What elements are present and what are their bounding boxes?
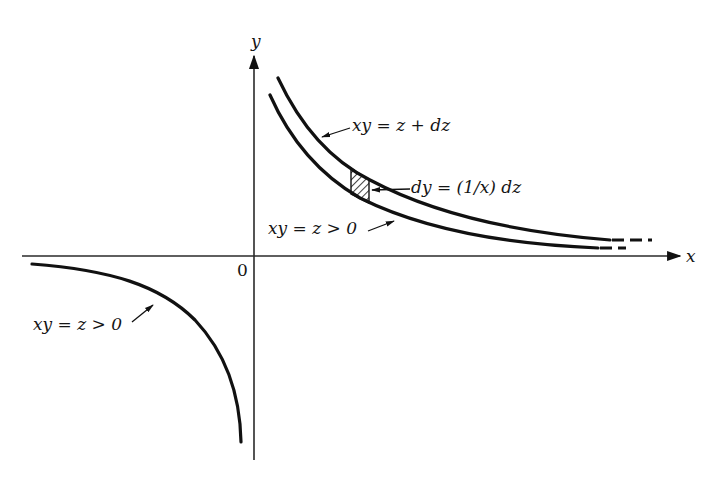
label-dy-formula: dy = (1/x) dz <box>411 177 522 197</box>
leader-lower-label <box>132 305 153 322</box>
leader-inner-label <box>368 221 394 231</box>
curve-xy-z-plus-dz <box>278 78 610 240</box>
curve-xy-z-third-quadrant <box>32 264 241 442</box>
leader-strip-label <box>372 189 410 190</box>
origin-label: 0 <box>237 260 248 280</box>
y-axis-label: y <box>250 31 261 51</box>
label-xy-z-plus-dz: xy = z + dz <box>352 115 451 135</box>
x-axis-label: x <box>686 246 696 266</box>
leader-outer-label <box>322 128 350 137</box>
label-xy-z-lower: xy = z > 0 <box>33 314 122 334</box>
label-xy-z-upper: xy = z > 0 <box>268 218 357 238</box>
hyperbola-diagram: x y 0 xy = z + dz dy = (1/x) dz xy = z >… <box>0 0 727 483</box>
